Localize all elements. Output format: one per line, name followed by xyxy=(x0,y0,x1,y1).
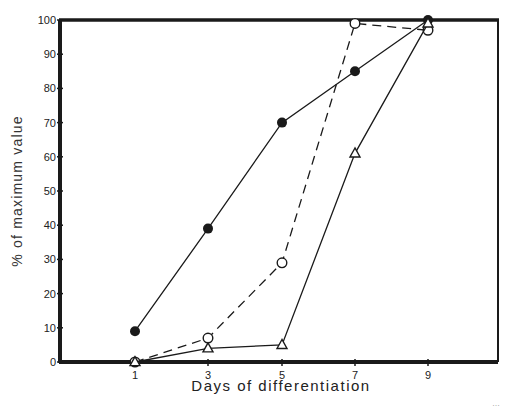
open-circle-marker xyxy=(350,19,360,29)
filled-circle-marker xyxy=(350,66,360,76)
series-open-triangle xyxy=(130,18,433,366)
series-line xyxy=(135,23,428,362)
series-filled-circle xyxy=(130,15,433,336)
plot-frame xyxy=(59,20,499,363)
x-tick-label: 9 xyxy=(425,369,431,381)
filled-circle-marker xyxy=(277,118,287,128)
y-tick-label: 10 xyxy=(44,322,56,334)
y-tick-label: 50 xyxy=(44,185,56,197)
data-series xyxy=(130,15,433,367)
open-triangle-marker xyxy=(277,340,287,349)
y-tick-label: 40 xyxy=(44,219,56,231)
y-tick-label: 70 xyxy=(44,117,56,129)
y-axis-title: % of maximum value xyxy=(9,115,25,267)
line-chart: 0102030405060708090100 13579 Days of dif… xyxy=(0,0,514,408)
series-line xyxy=(135,23,428,362)
y-tick-label: 80 xyxy=(44,82,56,94)
open-circle-marker xyxy=(277,258,287,268)
series-line xyxy=(135,20,428,331)
x-tick-label: 1 xyxy=(132,369,138,381)
open-triangle-marker xyxy=(203,343,213,352)
x-axis-title: Days of differentiation xyxy=(191,377,370,394)
caption-fragment: … xyxy=(492,399,500,408)
open-circle-marker xyxy=(203,333,213,343)
filled-circle-marker xyxy=(203,224,213,234)
y-tick-label: 100 xyxy=(38,14,56,26)
series-open-circle xyxy=(130,19,433,367)
y-tick-label: 60 xyxy=(44,151,56,163)
y-tick-label: 90 xyxy=(44,48,56,60)
filled-circle-marker xyxy=(130,326,140,336)
y-tick-label: 20 xyxy=(44,288,56,300)
open-triangle-marker xyxy=(350,148,360,157)
y-tick-label: 0 xyxy=(50,356,56,368)
y-tick-label: 30 xyxy=(44,253,56,265)
